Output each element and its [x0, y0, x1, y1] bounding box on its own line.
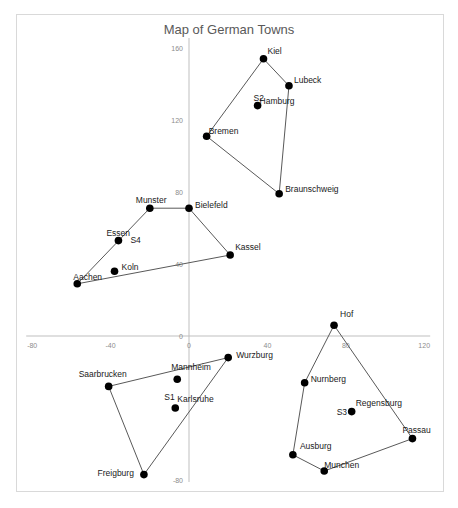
point-freigburg — [140, 471, 148, 479]
point-label: Munchen — [324, 460, 359, 470]
x-tick-label: -40 — [106, 342, 116, 349]
point-label: Kiel — [267, 46, 281, 56]
point-label: Saarbrucken — [79, 369, 127, 379]
point-lubeck — [285, 82, 293, 90]
point-label: Aachen — [73, 272, 102, 282]
point-nurnberg — [301, 379, 309, 387]
point-label: Hamburg — [260, 96, 295, 106]
annotation-label: S3 — [337, 407, 348, 417]
point-label: Lubeck — [294, 75, 322, 85]
point-essen — [115, 237, 123, 245]
point-kassel — [226, 251, 234, 259]
point-label: Ausburg — [300, 441, 332, 451]
point-regensburg — [348, 408, 356, 416]
point-saarbrucken — [105, 383, 113, 391]
point-bielefeld — [185, 204, 193, 212]
point-label: Essen — [106, 228, 130, 238]
point-label: Munster — [136, 195, 167, 205]
y-tick-label: -80 — [173, 477, 183, 484]
x-tick-label: 40 — [264, 342, 272, 349]
point-label: Karlsruhe — [177, 394, 214, 404]
annotation-label: S4 — [130, 235, 141, 245]
x-tick-label: 120 — [418, 342, 430, 349]
point-ausburg — [289, 451, 297, 459]
point-label: Bremen — [209, 126, 239, 136]
point-label: Mannheim — [171, 362, 211, 372]
point-wurzburg — [224, 354, 232, 362]
y-tick-label: 120 — [171, 117, 183, 124]
point-koln — [111, 267, 119, 275]
y-tick-label: 160 — [171, 45, 183, 52]
point-label: Regensburg — [356, 398, 403, 408]
x-tick-label: 0 — [187, 342, 191, 349]
y-tick-label: 80 — [175, 189, 183, 196]
point-label: Passau — [402, 425, 431, 435]
scatter-plot: -80-4004080120-8004080120160KielLubeckHa… — [0, 0, 458, 508]
point-label: Kassel — [235, 242, 261, 252]
point-mannheim — [173, 375, 181, 383]
point-braunschweig — [275, 190, 283, 198]
x-tick-label: -80 — [27, 342, 37, 349]
point-hof — [330, 321, 338, 329]
point-label: Braunschweig — [285, 184, 339, 194]
annotation-label: S2 — [254, 93, 265, 103]
point-label: Koln — [122, 262, 139, 272]
point-label: Bielefeld — [195, 200, 228, 210]
point-label: Hof — [340, 309, 354, 319]
annotation-label: S1 — [164, 392, 175, 402]
point-munster — [146, 204, 154, 212]
point-passau — [409, 435, 417, 443]
point-label: Freigburg — [98, 468, 135, 478]
point-kiel — [260, 55, 268, 63]
point-label: Nurnberg — [311, 374, 347, 384]
point-karlsruhe — [171, 404, 179, 412]
point-label: Wurzburg — [236, 350, 273, 360]
y-tick-label: 0 — [179, 333, 183, 340]
